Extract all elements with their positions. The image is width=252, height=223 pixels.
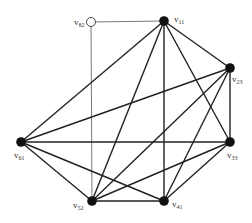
node-v52 <box>87 196 97 206</box>
node-label-v33: v33 <box>227 150 238 161</box>
node-label-v23: v23 <box>232 74 243 85</box>
edges-layer <box>21 21 230 201</box>
node-v23 <box>225 63 235 73</box>
edge-v82-v52 <box>91 22 92 201</box>
edge-v11-v61 <box>21 21 164 142</box>
node-v33 <box>225 137 235 147</box>
edge-v33-v41 <box>164 142 230 201</box>
node-label-v52: v52 <box>73 200 84 211</box>
node-v82 <box>87 18 96 27</box>
node-v11 <box>159 16 169 26</box>
graph-diagram: v82v11v23v61v33v52v41 <box>0 0 252 223</box>
edge-v11-v52 <box>92 21 164 201</box>
edge-v82-v11 <box>91 21 164 22</box>
node-label-v82: v82 <box>74 17 85 28</box>
edge-v11-v23 <box>164 21 230 68</box>
node-v61 <box>16 137 26 147</box>
node-v41 <box>159 196 169 206</box>
node-label-v11: v11 <box>174 14 184 25</box>
edge-v23-v52 <box>92 68 230 201</box>
edge-v61-v52 <box>21 142 92 201</box>
nodes-layer <box>16 16 235 206</box>
edge-v61-v41 <box>21 142 164 201</box>
edge-v11-v33 <box>164 21 230 142</box>
node-label-v61: v61 <box>14 150 25 161</box>
node-label-v41: v41 <box>172 199 183 210</box>
